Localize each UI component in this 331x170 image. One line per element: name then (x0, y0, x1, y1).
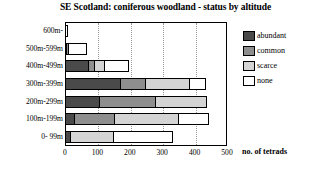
legend-label: none (257, 76, 273, 85)
legend-label: scarce (257, 61, 277, 70)
bar-row (65, 96, 207, 108)
legend-swatch-none (243, 76, 255, 86)
bar-segment-none (113, 131, 173, 143)
bar-segment-abundant (65, 96, 100, 108)
chart-title: SE Scotland: coniferous woodland - statu… (0, 2, 331, 12)
legend-swatch-abundant (243, 31, 255, 41)
x-axis-tick-label: 100 (82, 148, 112, 157)
y-axis-label: 100m-199m (1, 114, 63, 123)
y-axis-label: 400m-499m (1, 61, 63, 70)
y-axis-label: 600m- (1, 26, 63, 35)
bar-segment-none (68, 43, 86, 55)
y-axis-label: 200m-299m (1, 97, 63, 106)
bar-segment-common (120, 78, 146, 90)
bar-segment-none (189, 78, 206, 90)
bar-row (65, 78, 206, 90)
bar-segment-common (99, 96, 156, 108)
bar-segment-none (178, 113, 209, 125)
x-axis-tick-label: 300 (147, 148, 177, 157)
bar-row (65, 25, 68, 37)
bar-segment-scarce (114, 113, 179, 125)
bar-row (65, 131, 173, 143)
bar-segment-scarce (70, 131, 114, 143)
chart-legend: abundantcommonscarcenone (243, 28, 329, 88)
bar-segment-none (65, 25, 68, 37)
chart-container: SE Scotland: coniferous woodland - statu… (0, 0, 331, 170)
bar-segment-scarce (145, 78, 190, 90)
legend-item-common: common (243, 43, 329, 58)
legend-swatch-common (243, 46, 255, 56)
bar-row (65, 60, 129, 72)
bar-row (65, 43, 87, 55)
bar-segment-none (104, 60, 129, 72)
bar-segment-abundant (65, 60, 89, 72)
legend-item-scarce: scarce (243, 58, 329, 73)
bar-segment-abundant (65, 78, 121, 90)
y-axis-label: 300m-399m (1, 79, 63, 88)
bar-segment-common (74, 113, 115, 125)
y-axis-label: 0- 99m (1, 132, 63, 141)
bar-segment-scarce (155, 96, 207, 108)
legend-swatch-scarce (243, 61, 255, 71)
legend-item-none: none (243, 73, 329, 88)
y-axis-label: 500m-599m (1, 44, 63, 53)
legend-label: common (257, 46, 285, 55)
x-axis-caption: no. of tetrads (242, 147, 287, 156)
x-axis-tick-label: 400 (180, 148, 210, 157)
x-axis-tick-label: 200 (115, 148, 145, 157)
bar-row (65, 113, 209, 125)
legend-item-abundant: abundant (243, 28, 329, 43)
x-axis-tick-label: 500 (212, 148, 242, 157)
legend-label: abundant (257, 31, 286, 40)
y-axis-labels: 600m-500m-599m400m-499m300m-399m200m-299… (0, 22, 63, 146)
x-axis-tick-label: 0 (50, 148, 80, 157)
